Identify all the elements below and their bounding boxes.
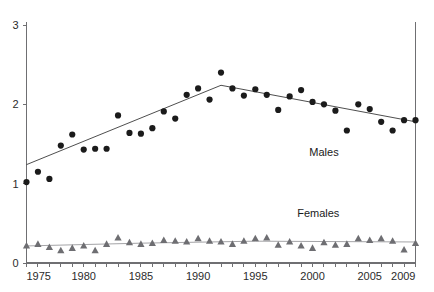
- x-tick-label: 1975: [27, 270, 51, 282]
- x-tick-labels: 19751980198519901995200020052009: [27, 270, 416, 282]
- female-data-point: [355, 235, 362, 242]
- female-data-point: [366, 236, 373, 243]
- male-data-point: [58, 142, 64, 148]
- female-data-point: [46, 244, 53, 251]
- female-data-point: [172, 237, 179, 244]
- female-data-point: [389, 237, 396, 244]
- series-annotation-females: Females: [297, 207, 340, 219]
- male-data-point: [298, 87, 304, 93]
- female-data-point: [320, 239, 327, 246]
- male-data-point: [103, 146, 109, 152]
- female-data-point: [92, 247, 99, 254]
- male-data-point: [367, 106, 373, 112]
- male-data-point: [206, 96, 212, 102]
- females-data-points: [23, 234, 419, 253]
- male-data-point: [46, 176, 52, 182]
- male-data-point: [138, 131, 144, 137]
- female-data-point: [217, 238, 224, 245]
- male-data-point: [195, 85, 201, 91]
- female-data-point: [412, 240, 419, 247]
- female-data-point: [297, 242, 304, 249]
- male-data-point: [115, 112, 121, 118]
- male-data-point: [275, 107, 281, 113]
- male-data-point: [35, 169, 41, 175]
- male-data-point: [241, 93, 247, 99]
- y-tick-label: 2: [12, 98, 18, 110]
- female-data-point: [114, 234, 121, 241]
- female-data-point: [57, 247, 64, 254]
- female-data-point: [126, 239, 133, 246]
- y-tick-label: 3: [12, 19, 18, 31]
- y-tick-labels: 0123: [12, 19, 18, 269]
- female-data-point: [378, 235, 385, 242]
- x-tick-label: 2000: [300, 270, 324, 282]
- male-data-point: [355, 101, 361, 107]
- scatter-chart: 0123 19751980198519901995200020052009 Ma…: [0, 0, 434, 292]
- male-data-point: [390, 127, 396, 133]
- male-data-point: [161, 108, 167, 114]
- male-data-point: [149, 125, 155, 131]
- x-tick-label: 1980: [71, 270, 95, 282]
- female-data-point: [206, 237, 213, 244]
- female-data-point: [332, 241, 339, 248]
- female-data-point: [69, 244, 76, 251]
- male-data-point: [92, 146, 98, 152]
- female-data-point: [137, 240, 144, 247]
- x-tick-label: 2005: [357, 270, 381, 282]
- female-data-point: [80, 242, 87, 249]
- male-data-point: [287, 93, 293, 99]
- male-data-point: [378, 119, 384, 125]
- female-data-point: [34, 240, 41, 247]
- y-tick-label: 1: [12, 178, 18, 190]
- female-data-point: [263, 234, 270, 241]
- males-trend-line: [27, 85, 416, 164]
- female-data-point: [183, 238, 190, 245]
- series-annotations: MalesFemales: [297, 146, 340, 219]
- male-data-point: [401, 117, 407, 123]
- male-data-point: [126, 130, 132, 136]
- male-data-point: [412, 117, 418, 123]
- x-tick-label: 1990: [186, 270, 210, 282]
- y-tick-label: 0: [12, 257, 18, 269]
- female-data-point: [275, 241, 282, 248]
- male-data-point: [81, 146, 87, 152]
- male-data-point: [321, 101, 327, 107]
- male-data-point: [229, 85, 235, 91]
- male-data-point: [344, 127, 350, 133]
- male-data-point: [23, 179, 29, 185]
- x-tick-label: 2009: [391, 270, 415, 282]
- male-data-point: [264, 92, 270, 98]
- female-data-point: [23, 242, 30, 249]
- female-data-point: [195, 235, 202, 242]
- chart-container: 0123 19751980198519901995200020052009 Ma…: [0, 0, 434, 292]
- male-data-point: [69, 131, 75, 137]
- female-data-point: [240, 237, 247, 244]
- male-data-point: [172, 116, 178, 122]
- female-data-point: [160, 236, 167, 243]
- male-data-point: [252, 86, 258, 92]
- male-data-point: [184, 92, 190, 98]
- male-data-point: [218, 70, 224, 76]
- x-tick-label: 1985: [129, 270, 153, 282]
- males-data-points: [23, 70, 418, 186]
- female-data-point: [309, 244, 316, 251]
- series-annotation-males: Males: [309, 146, 339, 158]
- x-tick-label: 1995: [243, 270, 267, 282]
- female-data-point: [252, 235, 259, 242]
- male-data-point: [309, 99, 315, 105]
- male-data-point: [332, 108, 338, 114]
- female-data-point: [400, 246, 407, 253]
